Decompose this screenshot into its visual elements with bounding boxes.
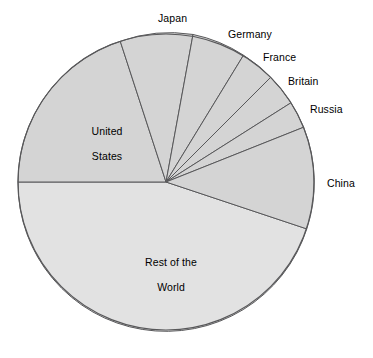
pie-label-rest-of-the-world-line2: World	[157, 281, 185, 293]
pie-label-france: France	[263, 51, 296, 64]
pie-label-rest-of-the-world-line1: Rest of the	[145, 256, 197, 268]
pie-label-britain: Britain	[288, 75, 318, 88]
pie-label-russia: Russia	[310, 103, 343, 116]
pie-label-united-states: United States	[55, 112, 147, 175]
pie-label-japan: Japan	[158, 12, 187, 25]
pie-label-united-states-line2: States	[92, 150, 122, 162]
pie-chart-figure: United States Rest of the World Japan Ge…	[0, 0, 373, 358]
pie-label-united-states-line1: United	[92, 125, 123, 137]
pie-label-germany: Germany	[228, 28, 272, 41]
pie-label-rest-of-the-world: Rest of the World	[110, 243, 220, 306]
pie-label-china: China	[327, 177, 355, 190]
